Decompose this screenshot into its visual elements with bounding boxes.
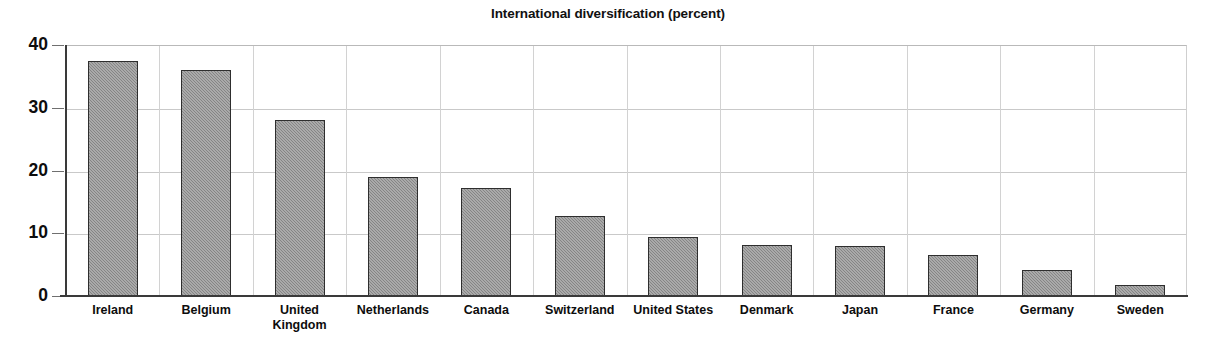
- gridline-v-9: [907, 46, 908, 296]
- x-tick-label-canada: Canada: [440, 303, 533, 318]
- bar-chart: International diversification (percent) …: [0, 0, 1216, 358]
- x-tick-label-belgium: Belgium: [159, 303, 252, 318]
- bar-switzerland[interactable]: [555, 216, 605, 296]
- x-tick-label-switzerland: Switzerland: [533, 303, 626, 318]
- x-tick-label-ireland: Ireland: [66, 303, 159, 318]
- bar-canada[interactable]: [461, 188, 511, 296]
- gridline-v-3: [346, 46, 347, 296]
- bar-united-states[interactable]: [648, 237, 698, 296]
- bar-japan[interactable]: [835, 246, 885, 296]
- bar-united-kingdom[interactable]: [275, 120, 325, 296]
- x-tick-label-united-states: United States: [627, 303, 720, 318]
- x-tick-label-netherlands: Netherlands: [346, 303, 439, 318]
- gridline-v-11: [1094, 46, 1095, 296]
- y-tick-mark-40: [52, 45, 64, 46]
- chart-title: International diversification (percent): [0, 6, 1216, 21]
- bar-netherlands[interactable]: [368, 177, 418, 296]
- y-axis-line: [65, 45, 67, 297]
- gridline-v-5: [533, 46, 534, 296]
- gridline-v-6: [627, 46, 628, 296]
- gridline-v-1: [159, 46, 160, 296]
- bar-france[interactable]: [928, 255, 978, 296]
- gridline-v-7: [720, 46, 721, 296]
- y-tick-mark-30: [52, 108, 64, 109]
- y-tick-mark-10: [52, 233, 64, 234]
- gridline-v-2: [253, 46, 254, 296]
- y-tick-label-30: 30: [4, 99, 48, 117]
- y-tick-mark-20: [52, 171, 64, 172]
- x-tick-label-japan: Japan: [813, 303, 906, 318]
- bar-ireland[interactable]: [88, 61, 138, 296]
- x-tick-label-united-kingdom: United Kingdom: [253, 303, 346, 333]
- y-tick-label-10: 10: [4, 224, 48, 242]
- x-tick-label-sweden: Sweden: [1094, 303, 1187, 318]
- y-tick-label-20: 20: [4, 162, 48, 180]
- x-tick-label-france: France: [907, 303, 1000, 318]
- x-tick-label-germany: Germany: [1000, 303, 1093, 318]
- y-tick-label-40: 40: [4, 36, 48, 54]
- gridline-v-10: [1000, 46, 1001, 296]
- y-tick-label-0: 0: [4, 287, 48, 305]
- bar-belgium[interactable]: [181, 70, 231, 296]
- gridline-v-4: [440, 46, 441, 296]
- plot-area: [66, 45, 1187, 296]
- bar-germany[interactable]: [1022, 270, 1072, 296]
- x-axis-line: [60, 295, 1188, 297]
- x-tick-label-denmark: Denmark: [720, 303, 813, 318]
- gridline-v-8: [813, 46, 814, 296]
- bar-denmark[interactable]: [742, 245, 792, 296]
